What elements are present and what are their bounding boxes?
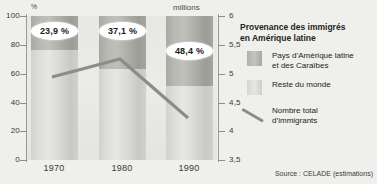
y-label-right: 5 [229, 69, 234, 78]
y-tick-right [218, 131, 225, 132]
bar-segment-rest-of-world [31, 50, 78, 160]
source-note: Source : CELADE (estimations) [275, 170, 373, 177]
legend-label-line1: Nombre total [272, 106, 318, 116]
data-label-1990: 48,4 % [166, 42, 213, 60]
bar-segment-rest-of-world [166, 86, 213, 160]
y-label-right: 6 [229, 11, 234, 20]
y-axis-right [218, 14, 219, 162]
data-label-1970: 23,9 % [31, 22, 78, 40]
legend-title: Provenance des immigrés en Amérique lati… [240, 22, 372, 44]
y-axis-left [26, 14, 27, 162]
y-label-left: 0 [0, 155, 20, 164]
y-label-left: 100 [0, 11, 20, 20]
y-label-left: 80 [0, 40, 20, 49]
y-label-left: 40 [0, 98, 20, 107]
y-label-right: 4,5 [229, 98, 241, 107]
legend-title-line1: Provenance des immigrés [240, 22, 372, 33]
legend-item-label: Reste du monde [272, 80, 331, 90]
y-axis-left-unit: % [31, 3, 37, 10]
y-tick-right [218, 16, 225, 17]
x-label-1970: 1970 [31, 163, 77, 173]
x-label-1980: 1980 [99, 163, 145, 173]
legend-item-label: Pays d’Amérique latine et des Caraïbes [272, 51, 354, 71]
y-tick-left [20, 16, 27, 17]
dark-swatch-icon [247, 51, 262, 66]
y-tick-left [20, 74, 27, 75]
bar-1990 [166, 16, 213, 160]
legend-label-line1: Pays d’Amérique latine [272, 51, 354, 61]
light-swatch-icon [247, 80, 262, 95]
legend-label-line1: Reste du monde [272, 80, 331, 90]
legend-item-label: Nombre total d’immigrants [272, 106, 318, 126]
y-tick-left [20, 160, 27, 161]
line-swatch-icon [243, 106, 265, 121]
y-tick-right [218, 103, 225, 104]
y-tick-left [20, 45, 27, 46]
legend-item-rest-of-world[interactable]: Reste du monde [240, 80, 377, 95]
y-label-right: 4 [229, 126, 234, 135]
bar-segment-rest-of-world [99, 69, 146, 160]
y-tick-right [218, 74, 225, 75]
x-label-1990: 1990 [166, 163, 212, 173]
y-label-right: 3,5 [229, 155, 241, 164]
y-tick-left [20, 131, 27, 132]
y-tick-right [218, 45, 225, 46]
legend-item-total-immigrants[interactable]: Nombre total d’immigrants [240, 106, 377, 126]
legend-item-latin-america[interactable]: Pays d’Amérique latine et des Caraïbes [240, 51, 377, 71]
legend: Provenance des immigrés en Amérique lati… [240, 22, 377, 126]
data-label-1980: 37,1 % [99, 22, 146, 40]
legend-label-line2: et des Caraïbes [272, 61, 354, 71]
y-tick-left [20, 103, 27, 104]
legend-title-line2: en Amérique latine [240, 33, 372, 44]
y-label-right: 5,5 [229, 40, 241, 49]
y-tick-right [218, 160, 225, 161]
chart-figure: % millions 100 80 60 40 20 0 6 5,5 5 4,5… [0, 0, 377, 184]
y-label-left: 60 [0, 69, 20, 78]
legend-label-line2: d’immigrants [272, 116, 318, 126]
y-axis-right-unit: millions [173, 3, 200, 12]
y-label-left: 20 [0, 126, 20, 135]
